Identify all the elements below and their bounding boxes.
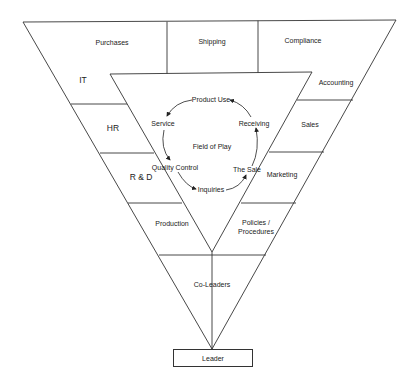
label-service: Service — [151, 120, 174, 129]
label-marketing: Marketing — [267, 171, 298, 180]
label-policies-procedures: Policies / Procedures — [238, 219, 274, 237]
arrow-inquiries-thesale — [226, 175, 246, 190]
arrow-receiving-productuse — [230, 100, 251, 117]
label-purchases: Purchases — [95, 39, 128, 48]
label-hr: HR — [107, 123, 119, 134]
arrow-qc-inquiries — [178, 172, 196, 189]
label-quality-control: Quality Control — [152, 164, 198, 173]
arrow-thesale-receiving — [252, 128, 257, 166]
label-co-leaders: Co-Leaders — [194, 281, 231, 290]
label-compliance: Compliance — [285, 37, 322, 46]
pyramid-diagram — [0, 0, 413, 390]
label-accounting: Accounting — [319, 79, 354, 88]
label-leader: Leader — [202, 355, 224, 362]
label-shipping: Shipping — [198, 38, 225, 47]
label-rd: R & D — [130, 172, 153, 183]
label-sales: Sales — [301, 121, 319, 130]
label-receiving: Receiving — [239, 120, 270, 129]
label-it: IT — [79, 75, 87, 86]
arrow-productuse-service — [167, 100, 192, 116]
leader-box: Leader — [173, 349, 253, 367]
label-inquiries: Inquiries — [198, 186, 224, 195]
label-product-use: Product Use — [192, 96, 231, 105]
label-field-of-play: Field of Play — [193, 143, 232, 152]
arrow-service-qc — [163, 130, 170, 160]
label-the-sale: The Sale — [233, 166, 261, 175]
policies-line1: Policies / — [242, 219, 270, 226]
label-production: Production — [155, 220, 188, 229]
outer-triangle — [23, 20, 396, 349]
policies-line2: Procedures — [238, 228, 274, 235]
